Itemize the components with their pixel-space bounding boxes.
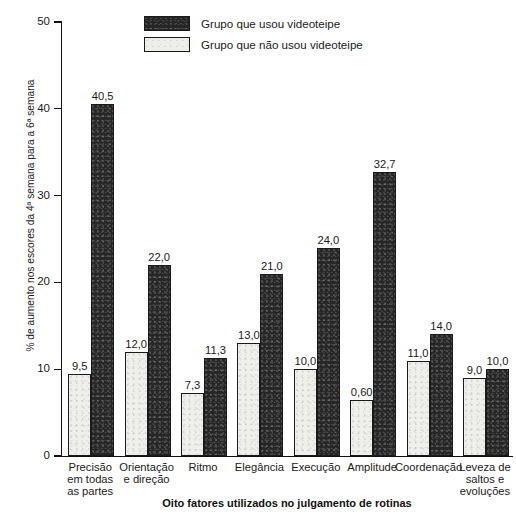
x-axis-title: Oito fatores utilizados no julgamento de… <box>61 497 513 509</box>
bar-light <box>463 378 486 456</box>
bar-light <box>68 374 91 456</box>
bar-light <box>125 352 148 456</box>
category-label-line: evoluções <box>451 486 516 498</box>
bar-light <box>237 343 260 456</box>
bar-light <box>407 361 430 456</box>
plot-bars-layer: 9,540,5Precisãoem todasas partes12,022,0… <box>0 0 516 518</box>
bar-dark <box>204 358 227 456</box>
category-label-line: saltos e <box>451 474 516 486</box>
bar-light <box>294 369 317 456</box>
bar-value-label: 24,0 <box>309 234 348 246</box>
bar-value-label: 14,0 <box>422 320 461 332</box>
bar-dark <box>91 104 114 456</box>
category-label-line: as partes <box>56 486 124 498</box>
bar-dark <box>317 248 340 456</box>
x-axis-category-label: Leveza desaltos eevoluções <box>451 462 516 497</box>
bar-value-label: 11,3 <box>196 344 235 356</box>
bar-value-label: 21,0 <box>252 260 291 272</box>
bar-dark <box>373 172 396 456</box>
bar-value-label: 40,5 <box>83 90 122 102</box>
category-label-line: e direção <box>112 474 180 486</box>
bar-value-label: 32,7 <box>365 158 404 170</box>
bar-dark <box>486 369 509 456</box>
bar-light <box>350 400 373 456</box>
bar-dark <box>148 265 171 456</box>
chart-figure: 01020304050 % de aumento nos escores da … <box>0 0 516 518</box>
bar-value-label: 10,0 <box>478 355 516 367</box>
bar-light <box>181 393 204 456</box>
bar-value-label: 22,0 <box>140 251 179 263</box>
bar-dark <box>430 334 453 456</box>
bar-dark <box>260 274 283 456</box>
